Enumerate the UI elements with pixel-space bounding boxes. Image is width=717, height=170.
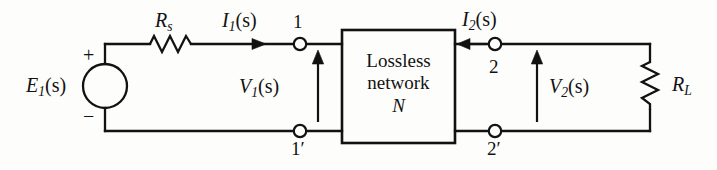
terminal-2p-node bbox=[489, 125, 501, 137]
series-resistor-label-sub: s bbox=[167, 19, 172, 34]
terminal-2-label: 2 bbox=[489, 57, 499, 76]
load-resistor-label-sub: L bbox=[684, 83, 692, 98]
input-voltage-label-arg: (s) bbox=[258, 75, 279, 97]
series-resistor-symbol bbox=[150, 36, 191, 52]
output-voltage-label-main: V bbox=[549, 75, 561, 97]
network-box-line1: Lossless bbox=[342, 50, 455, 72]
output-voltage-arrow bbox=[531, 50, 542, 122]
output-current-arrow bbox=[457, 39, 487, 50]
terminal-1-node bbox=[294, 38, 306, 50]
terminal-1p-label: 1′ bbox=[291, 139, 305, 158]
input-voltage-label-sub: 1 bbox=[251, 85, 258, 100]
voltage-source-circle bbox=[83, 64, 127, 108]
input-current-label-arg: (s) bbox=[235, 9, 256, 31]
input-voltage-arrow bbox=[312, 50, 323, 122]
output-current-label-arg: (s) bbox=[475, 8, 496, 30]
terminal-1-label: 1 bbox=[293, 12, 303, 31]
output-voltage-label-sub: 2 bbox=[561, 85, 568, 100]
input-current-arrow bbox=[215, 39, 266, 50]
input-current-label-main: I bbox=[222, 9, 229, 31]
series-resistor-label-main: R bbox=[155, 9, 167, 31]
series-resistor-label: Rs bbox=[155, 10, 173, 34]
output-voltage-label: V2(s) bbox=[549, 76, 589, 100]
source-minus-sign: − bbox=[83, 106, 94, 126]
load-resistor-label-main: R bbox=[672, 73, 684, 95]
circuit-diagram-figure: E1(s) + − Rs I1(s) 1 1′ V1(s) Lossless n… bbox=[0, 0, 717, 170]
source-label: E1(s) bbox=[26, 75, 66, 99]
input-voltage-label: V1(s) bbox=[239, 76, 279, 100]
output-current-label-main: I bbox=[462, 8, 469, 30]
source-label-arg: (s) bbox=[45, 74, 66, 96]
source-plus-sign: + bbox=[83, 45, 94, 65]
input-voltage-label-main: V bbox=[239, 75, 251, 97]
load-resistor-label: RL bbox=[672, 74, 692, 98]
terminal-2-node bbox=[489, 38, 501, 50]
source-label-sub: 1 bbox=[38, 84, 45, 99]
network-box-text: Lossless network N bbox=[342, 50, 455, 117]
input-current-label: I1(s) bbox=[222, 10, 257, 34]
output-current-label: I2(s) bbox=[462, 9, 497, 33]
source-label-main: E bbox=[26, 74, 38, 96]
network-box-line2: network bbox=[342, 72, 455, 94]
network-box-line3: N bbox=[342, 95, 455, 117]
output-voltage-label-arg: (s) bbox=[568, 75, 589, 97]
terminal-1p-node bbox=[294, 125, 306, 137]
load-resistor-symbol bbox=[642, 62, 658, 110]
terminal-2p-label: 2′ bbox=[487, 139, 501, 158]
